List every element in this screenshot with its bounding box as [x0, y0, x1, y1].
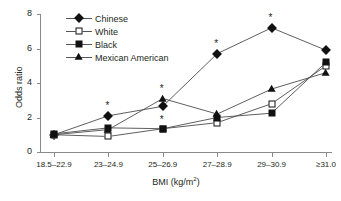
legend-item-black[interactable]: Black [66, 38, 169, 51]
marker-black [323, 59, 330, 66]
marker-black [159, 125, 166, 132]
legend-marker-black [76, 41, 83, 48]
legend-symbol-mexican-american [66, 51, 92, 64]
significance-star: * [269, 13, 273, 23]
chart-legend: ChineseWhiteBlackMexican American [66, 12, 169, 64]
legend-label-mexican-american: Mexican American [92, 53, 169, 63]
legend-label-white: White [92, 27, 118, 37]
legend-symbol-black [66, 38, 92, 51]
series-line-black [54, 62, 326, 134]
legend-marker-white [76, 28, 83, 35]
marker-mexican-american [213, 110, 221, 117]
legend-marker-mexican-american [75, 53, 83, 60]
marker-mexican-american [104, 125, 112, 132]
legend-symbol-chinese [66, 12, 92, 25]
series-line-white [54, 66, 326, 137]
legend-label-chinese: Chinese [92, 14, 128, 24]
legend-symbol-white [66, 25, 92, 38]
marker-black [268, 110, 275, 117]
marker-mexican-american [158, 94, 166, 101]
significance-star: * [160, 84, 164, 94]
marker-mexican-american [322, 68, 330, 75]
legend-item-chinese[interactable]: Chinese [66, 12, 169, 25]
legend-item-mexican-american[interactable]: Mexican American [66, 51, 169, 64]
significance-star: * [105, 101, 109, 111]
marker-white [268, 100, 275, 107]
significance-star: * [160, 115, 164, 125]
marker-mexican-american [267, 85, 275, 92]
legend-marker-chinese [74, 13, 84, 23]
marker-white [105, 133, 112, 140]
significance-star: * [214, 39, 218, 49]
legend-item-white[interactable]: White [66, 25, 169, 38]
marker-mexican-american [50, 131, 58, 138]
legend-label-black: Black [92, 40, 117, 50]
